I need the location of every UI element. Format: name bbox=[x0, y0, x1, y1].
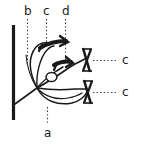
label-d: d bbox=[62, 5, 70, 17]
label-c-right-upper: c bbox=[122, 54, 129, 66]
background bbox=[0, 0, 141, 144]
label-c-top: c bbox=[43, 5, 50, 17]
label-a: a bbox=[44, 127, 51, 139]
label-c-right-lower: c bbox=[122, 86, 129, 98]
label-b: b bbox=[24, 5, 32, 17]
small-oval bbox=[46, 72, 57, 81]
figure-canvas: b c d a c c bbox=[0, 0, 141, 144]
figure-drawing bbox=[0, 0, 141, 144]
